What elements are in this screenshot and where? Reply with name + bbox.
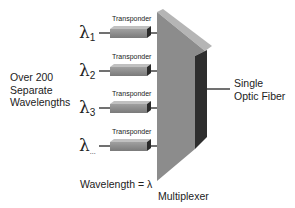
caption-line-3: Wavelengths: [10, 96, 70, 109]
transponder-4: [99, 139, 157, 151]
wavelength-legend: Wavelength = λ: [80, 178, 152, 191]
wavelength-label-1: λ1: [79, 24, 95, 46]
wavelength-label-4: λ...: [79, 137, 96, 160]
multiplexer-label: Multiplexer: [158, 190, 209, 203]
wavelength-label-3: λ3: [79, 99, 95, 121]
left-caption: Over 200 Separate Wavelengths: [10, 71, 70, 109]
caption-line-1: Over 200: [10, 71, 70, 84]
multiplexer-block: [157, 9, 212, 181]
output-label-line-2: Optic Fiber: [234, 90, 285, 103]
transponder-2: [99, 64, 157, 76]
transponder-1: [99, 26, 157, 38]
caption-line-2: Separate: [10, 84, 70, 97]
transponder-label-3: Transponder: [112, 90, 151, 98]
transponder-3: [99, 101, 157, 113]
transponder-label-4: Transponder: [112, 128, 151, 136]
output-label-line-1: Single: [234, 77, 285, 90]
transponder-label-1: Transponder: [112, 15, 151, 23]
transponder-label-2: Transponder: [112, 53, 151, 61]
wavelength-label-2: λ2: [79, 62, 95, 84]
output-fiber-label: Single Optic Fiber: [234, 77, 285, 102]
